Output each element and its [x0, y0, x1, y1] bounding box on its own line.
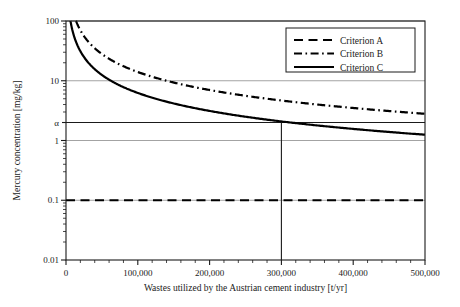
y-tick-label: 100 — [46, 16, 60, 26]
x-tick-label: 500,000 — [410, 268, 440, 278]
legend-label-criterion-a: Criterion A — [340, 36, 383, 46]
x-tick-label: 100,000 — [123, 268, 153, 278]
y-tick-label: 0.01 — [43, 255, 59, 265]
chart-canvas: 0100,000200,000300,000400,000500,000 0.0… — [0, 0, 460, 307]
legend-label-criterion-b: Criterion B — [340, 49, 383, 59]
mercury-concentration-chart: 0100,000200,000300,000400,000500,000 0.0… — [0, 0, 460, 307]
legend-label-criterion-c: Criterion C — [340, 63, 383, 73]
x-tick-label: 400,000 — [339, 268, 369, 278]
x-axis-title: Wastes utilized by the Austrian cement i… — [144, 283, 347, 293]
y-alpha-label: α — [54, 118, 59, 128]
y-axis-title: Mercury concentration [mg/kg] — [12, 81, 22, 201]
x-tick-label: 200,000 — [195, 268, 225, 278]
y-tick-label: 0.1 — [48, 195, 59, 205]
x-tick-label: 0 — [64, 268, 69, 278]
chart-legend: Criterion ACriterion BCriterion C — [286, 28, 415, 73]
y-tick-label: 10 — [50, 76, 60, 86]
y-tick-label: 1 — [55, 136, 60, 146]
x-tick-label: 300,000 — [267, 268, 297, 278]
